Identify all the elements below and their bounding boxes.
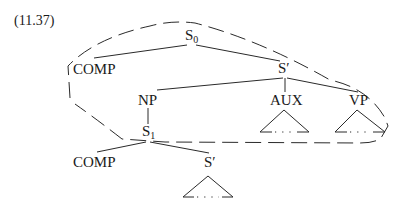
- edge-s0-comp: [94, 45, 187, 58]
- dashed-domain-outline: [68, 22, 388, 143]
- node-comp-top: COMP: [73, 61, 116, 77]
- node-vp: VP: [349, 92, 368, 108]
- edge-s1-sbar: [150, 142, 209, 153]
- example-number: (11.37): [14, 13, 55, 29]
- triangle-sbar-bottom: [183, 176, 233, 197]
- edge-sbar-np: [157, 78, 283, 90]
- node-sbar-top: S′: [278, 60, 290, 76]
- node-aux: AUX: [270, 92, 303, 108]
- node-comp-bottom: COMP: [73, 154, 116, 170]
- edge-s1-comp: [97, 142, 146, 152]
- node-s0: S0: [185, 27, 198, 45]
- node-sbar-bottom: S′: [204, 154, 216, 170]
- node-np: NP: [138, 92, 157, 108]
- syntax-tree-diagram: (11.37) S0 COMP S′ NP AUX VP S1 COM: [0, 0, 411, 208]
- triangle-aux: [260, 110, 309, 132]
- node-s1: S1: [142, 123, 155, 141]
- triangle-vp: [335, 110, 385, 132]
- edge-s0-sbar: [196, 45, 280, 61]
